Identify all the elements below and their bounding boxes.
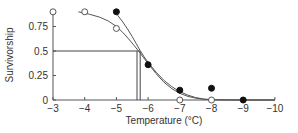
lt50-guides <box>53 51 140 100</box>
y-tick-label: 0.5 <box>34 46 48 57</box>
filled-circle-point <box>209 85 215 91</box>
x-tick-label: −10 <box>266 103 283 114</box>
filled-circle-point <box>177 87 183 93</box>
x-tick-label: −9 <box>237 103 249 114</box>
x-tick-label: −3 <box>47 103 59 114</box>
open-circle-point <box>82 9 88 15</box>
y-tick-label: 0 <box>42 95 48 106</box>
filled-circle-point <box>145 62 151 68</box>
x-tick-label: −7 <box>174 103 186 114</box>
y-axis-label: Survivorship <box>4 27 15 82</box>
data-points <box>50 9 246 103</box>
x-tick-label: −8 <box>206 103 218 114</box>
fit-curves <box>78 10 275 100</box>
open-circle-point <box>50 9 56 15</box>
filled-circle-point <box>113 9 119 15</box>
x-tick-label: −5 <box>111 103 123 114</box>
x-tick-label: −4 <box>79 103 91 114</box>
y-tick-label: 0.25 <box>29 70 49 81</box>
filled-circle-point <box>240 97 246 103</box>
open-circle-point <box>209 97 215 103</box>
open-circle-point <box>113 25 119 31</box>
y-tick-label: 0.75 <box>29 21 49 32</box>
survivorship-chart: −3−4−5−6−7−8−9−1000.250.50.75 Temperatur… <box>0 0 298 133</box>
fit-curve <box>78 12 275 100</box>
x-axis-label: Temperature (°C) <box>126 115 203 126</box>
x-tick-label: −6 <box>142 103 154 114</box>
open-circle-point <box>177 97 183 103</box>
